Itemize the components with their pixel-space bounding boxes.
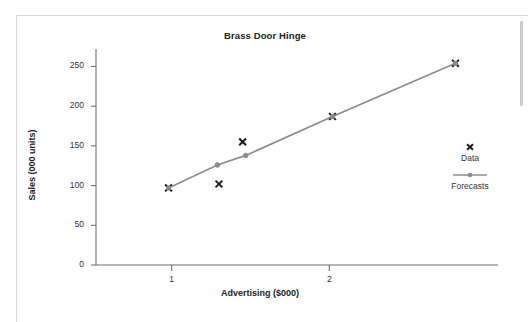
y-tick-label: 50 (50, 219, 84, 229)
data-point-circle (453, 61, 458, 66)
data-point-x (216, 181, 223, 188)
chart-area: Brass Door Hinge 050100150200250 12 Sale… (0, 0, 530, 322)
x-tick-label: 2 (314, 274, 344, 284)
line-circle-marker-icon (432, 168, 508, 180)
chart-legend: Data Forecasts (432, 140, 508, 196)
figure-root: Brass Door Hinge 050100150200250 12 Sale… (0, 0, 530, 322)
y-axis-title: Sales (000 units) (27, 95, 37, 235)
y-tick-label: 200 (50, 100, 84, 110)
y-tick-label: 100 (50, 180, 84, 190)
x-marker-icon (432, 140, 508, 152)
legend-label-forecasts: Forecasts (432, 180, 508, 192)
series-group (165, 60, 459, 191)
data-point-circle (243, 153, 248, 158)
data-point-circle (330, 114, 335, 119)
series-forecasts (166, 61, 458, 191)
y-tick-label: 150 (50, 140, 84, 150)
data-point-circle (215, 162, 220, 167)
legend-entry-forecasts[interactable]: Forecasts (432, 168, 508, 192)
data-point-circle (166, 185, 171, 190)
y-tick-label: 250 (50, 60, 84, 70)
series-line (169, 63, 456, 188)
x-tick-label: 1 (157, 274, 187, 284)
y-tick-label: 0 (50, 259, 84, 269)
x-axis-title: Advertising ($000) (60, 288, 460, 298)
legend-entry-data[interactable]: Data (432, 140, 508, 164)
data-point-x (239, 139, 246, 146)
legend-label-data: Data (432, 152, 508, 164)
